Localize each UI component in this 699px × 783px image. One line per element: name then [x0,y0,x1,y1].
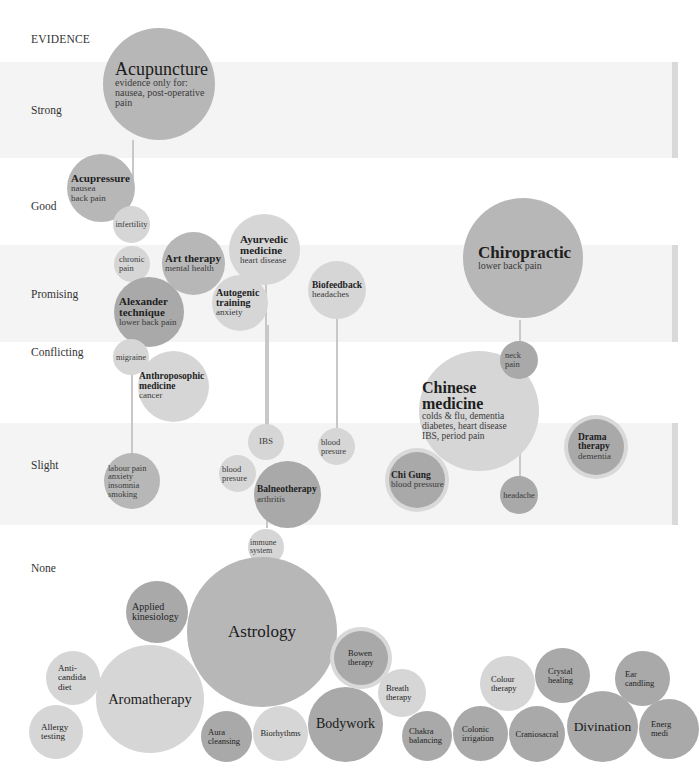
bubble-colour-therapy[interactable]: Colour therapy [480,656,535,711]
band-strong [0,62,678,158]
page-edge [672,62,678,158]
bubble-astrology[interactable]: Astrology [187,557,337,707]
bubble-sub: presure [222,474,256,483]
bubble-title: Acupuncture [115,60,215,78]
bubble-label: Bodywork [316,717,375,731]
bubble-sub: headaches [312,290,366,299]
bubble-sub: lower back pain [119,318,184,327]
bubble-colonic-irrigation[interactable]: Colonic irrigation [453,706,508,761]
bubble-applied-kinesiology[interactable]: Applied kinesiology [126,581,188,643]
bubble-anti-candida-diet[interactable]: Anti- candida diet [46,651,100,705]
bubble-ear-candling[interactable]: Ear candling [615,651,670,706]
bubble-chi-gung[interactable]: Chi Gung blood pressure [389,452,445,508]
bubble-sub: pain [119,264,150,273]
stem-acupuncture-lower [131,370,133,462]
bubble-label: cleansing [208,737,252,746]
bubble-allergy-testing[interactable]: Allergy testing [29,705,83,759]
bubble-label: healing [548,676,590,685]
bubble-balneotherapy[interactable]: Balneotherapy arthritis [254,461,321,528]
level-strong: Strong [31,104,62,116]
bubble-label: diet [58,683,100,692]
bubble-label: Biorhythms [260,729,300,738]
bubble-label: medi [651,729,699,738]
bubble-label: therapy [491,684,535,693]
bubble-sub: smoking [108,490,160,499]
bubble-labour-pain[interactable]: labour pain anxiety insomnia smoking [104,453,160,509]
bubble-label: irrigation [462,734,508,743]
bubble-ayurvedic-medicine[interactable]: Ayurvedic medicine heart disease [229,214,300,285]
bubble-headache[interactable]: headache [500,476,538,514]
bubble-sub: migraine [116,353,146,362]
bubble-label: Divination [574,720,632,734]
bubble-sub: anxiety [216,308,268,317]
level-none: None [31,562,56,574]
bubble-label: balancing [409,736,452,745]
bubble-title: medicine [422,396,539,412]
bubble-bowen-therapy[interactable]: Bowen therapy [334,631,388,685]
bubble-biofeedback[interactable]: Biofeedback headaches [308,261,366,319]
bubble-sub: pain [505,360,538,369]
bubble-ibs[interactable]: IBS [248,424,284,460]
level-good: Good [31,200,57,212]
bubble-crystal-healing[interactable]: Crystal healing [535,648,590,703]
stem-autogenic [267,325,269,435]
bubble-label: Aromatherapy [108,692,192,707]
bubble-energy-medicine[interactable]: Energ medi [639,699,699,759]
page-edge [672,245,678,342]
bubble-label: therapy [348,658,388,667]
bubble-chiropractic[interactable]: Chiropractic lower back pain [463,198,583,318]
bubble-sub: system [250,547,284,555]
bubble-label: therapy [386,693,426,702]
level-slight: Slight [31,459,58,471]
bubble-sub: lower back pain [478,261,583,271]
bubble-biorhythms[interactable]: Biorhythms [253,706,308,761]
bubble-blood-presure-biofeedback[interactable]: blood presure [318,428,355,465]
stem-biofeedback [336,318,338,428]
bubble-chakra-balancing[interactable]: Chakra balancing [402,711,452,761]
bubble-infertility[interactable]: infertility [113,206,150,243]
bubble-title: Chiropractic [478,244,583,261]
level-promising: Promising [31,288,78,300]
bubble-aromatherapy[interactable]: Aromatherapy [96,645,204,753]
bubble-anthroposophic-medicine[interactable]: Anthroposophic medicine cancer [138,351,209,422]
bubble-sub: blood pressure [391,480,445,489]
bubble-neck-pain[interactable]: neck pain [500,341,538,379]
bubble-label: kinesiology [132,612,188,622]
bubble-breath-therapy[interactable]: Breath therapy [378,669,426,717]
bubble-sub: dementia [578,452,624,461]
bubble-blood-presure-autogenic[interactable]: blood presure [219,455,256,492]
bubble-aura-cleansing[interactable]: Aura cleansing [201,711,252,762]
bubble-sub: presure [321,447,355,456]
bubble-sub: IBS, period pain [422,432,539,442]
bubble-sub: infertility [115,220,147,229]
bubble-sub: cancer [139,391,209,400]
bubble-label: candling [625,679,670,688]
level-conflicting: Conflicting [31,346,83,358]
page-edge [672,423,678,525]
bubble-drama-therapy[interactable]: Drama therapy dementia [568,419,624,475]
bubble-acupuncture[interactable]: Acupuncture evidence only for: nausea, p… [103,28,215,140]
bubble-sub: arthritis [257,495,321,504]
bubble-sub: heart disease [240,256,300,265]
bubble-craniosacral[interactable]: Craniosacral [509,706,565,762]
bubble-sub: mental health [165,264,225,273]
bubble-sub: headache [503,491,535,500]
axis-title: EVIDENCE [31,33,90,45]
bubble-label: Astrology [228,623,296,640]
bubble-sub: IBS [259,437,273,446]
bubble-sub: pain [115,98,215,108]
bubble-bodywork[interactable]: Bodywork [308,687,383,762]
bubble-sub: back pain [71,194,135,203]
bubble-art-therapy[interactable]: Art therapy mental health [162,232,225,295]
bubble-title: Chinese [422,380,539,396]
bubble-label: testing [41,732,83,741]
bubble-label: Craniosacral [516,730,559,739]
